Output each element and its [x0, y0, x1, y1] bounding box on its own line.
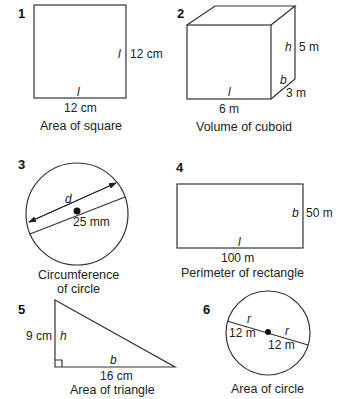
figure-number: 5 — [18, 302, 25, 317]
figure-square: 1 l 12 cm l 12 cm Area of square — [18, 5, 163, 133]
radius-variable-left: r — [247, 312, 252, 326]
length-value: 100 m — [221, 251, 254, 265]
center-point — [265, 329, 271, 335]
shapes-diagram: 1 l 12 cm l 12 cm Area of square 2 h 5 m… — [0, 0, 350, 399]
base-value: 16 cm — [100, 369, 133, 383]
bottom-value: 12 cm — [64, 101, 97, 115]
figure-triangle: 5 9 cm h b 16 cm Area of triangle — [18, 300, 175, 397]
figure-number: 4 — [176, 160, 184, 175]
figure-caption: Area of triangle — [70, 383, 155, 397]
figure-caption: Area of square — [40, 119, 122, 133]
height-value: 9 cm — [26, 329, 52, 343]
radius-value-left: 12 m — [229, 326, 256, 340]
radius-variable-right: r — [285, 324, 290, 338]
breadth-value: 3 m — [286, 86, 306, 100]
length-variable: l — [228, 85, 231, 99]
side-value: 12 cm — [130, 47, 163, 61]
square-shape — [34, 5, 126, 98]
right-angle-marker — [55, 360, 62, 367]
breadth-value: 50 m — [306, 206, 333, 220]
figure-number: 3 — [18, 157, 25, 172]
bottom-variable: l — [77, 85, 80, 99]
breadth-variable: b — [292, 206, 299, 220]
diameter-value: 25 mm — [73, 215, 110, 229]
figure-number: 1 — [18, 6, 25, 21]
base-variable: b — [110, 353, 117, 367]
cuboid-top-face — [187, 6, 295, 25]
figure-circle-circumference: 3 d 25 mm Circumference of circle — [18, 157, 128, 296]
radius-value-right: 12 m — [268, 338, 295, 352]
figure-caption-line2: of circle — [57, 282, 100, 296]
figure-caption-line1: Circumference — [38, 268, 119, 282]
figure-rectangle: 4 b 50 m l 100 m Perimeter of rectangle — [176, 160, 333, 280]
figure-number: 6 — [203, 302, 210, 317]
height-value: 5 m — [299, 40, 319, 54]
figure-caption: Area of circle — [231, 382, 304, 396]
figure-caption: Perimeter of rectangle — [181, 266, 304, 280]
breadth-variable: b — [280, 73, 287, 87]
height-variable: h — [285, 40, 292, 54]
length-variable: l — [238, 235, 241, 249]
side-variable: l — [118, 47, 121, 61]
diameter-variable: d — [65, 192, 72, 206]
length-value: 6 m — [219, 102, 239, 116]
center-point — [74, 208, 81, 215]
figure-caption: Volume of cuboid — [196, 120, 292, 134]
height-variable: h — [60, 329, 67, 343]
figure-circle-area: 6 r 12 m r 12 m Area of circle — [203, 291, 310, 396]
figure-cuboid: 2 h 5 m b 3 m l 6 m Volume of cuboid — [177, 6, 319, 134]
figure-number: 2 — [177, 6, 184, 21]
